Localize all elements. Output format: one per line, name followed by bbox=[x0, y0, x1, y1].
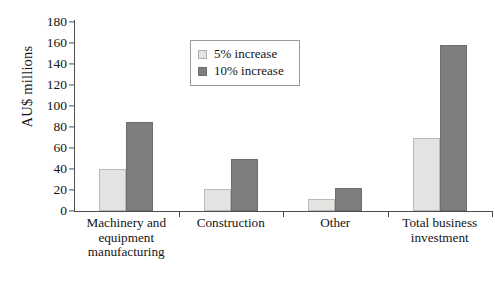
x-axis-category-label: Construction bbox=[179, 216, 284, 231]
bar-0 bbox=[99, 169, 126, 211]
y-axis-tick-mark bbox=[69, 147, 74, 148]
y-axis-tick-label: 20 bbox=[25, 182, 74, 198]
x-axis-category-label: Total businessinvestment bbox=[388, 216, 493, 245]
category-label-line: Construction bbox=[179, 216, 284, 231]
bar-0 bbox=[204, 189, 231, 211]
legend-swatch-icon bbox=[198, 50, 207, 59]
legend-item-label: 10% increase bbox=[214, 63, 284, 79]
legend-item-label: 5% increase bbox=[214, 46, 277, 62]
y-axis-tick-mark bbox=[69, 21, 74, 22]
bar-0 bbox=[308, 199, 335, 211]
chart-legend: 5% increase 10% increase bbox=[190, 40, 300, 86]
y-axis-tick-mark bbox=[69, 189, 74, 190]
y-axis-tick-mark bbox=[69, 84, 74, 85]
y-axis-tick-label: 140 bbox=[25, 56, 74, 72]
x-axis-tick-mark bbox=[492, 211, 493, 217]
bar-1 bbox=[440, 45, 467, 211]
y-axis-tick-mark bbox=[69, 168, 74, 169]
bar-chart: AU$ millions 020406080100120140160180 5%… bbox=[0, 0, 495, 281]
legend-swatch-icon bbox=[198, 67, 207, 76]
y-axis-tick-label: 80 bbox=[25, 119, 74, 135]
bar-1 bbox=[126, 122, 153, 211]
category-label-line: Other bbox=[283, 216, 388, 231]
x-axis-category-label: Other bbox=[283, 216, 388, 231]
y-axis-tick-label: 120 bbox=[25, 77, 74, 93]
category-label-line: Total business bbox=[388, 216, 493, 231]
y-axis-tick-label: 160 bbox=[25, 35, 74, 51]
legend-item: 5% increase bbox=[198, 46, 292, 62]
y-axis-tick-mark bbox=[69, 42, 74, 43]
y-axis-tick-label: 100 bbox=[25, 98, 74, 114]
y-axis-tick-label: 40 bbox=[25, 161, 74, 177]
y-axis-tick-mark bbox=[69, 105, 74, 106]
bar-0 bbox=[413, 138, 440, 212]
bar-1 bbox=[231, 159, 258, 212]
y-axis-tick-label: 60 bbox=[25, 140, 74, 156]
y-axis-tick-mark bbox=[69, 126, 74, 127]
bar-1 bbox=[335, 188, 362, 211]
y-axis-tick-label: 0 bbox=[25, 203, 74, 219]
category-label-line: Machinery and bbox=[74, 216, 179, 231]
category-label-line: investment bbox=[388, 231, 493, 246]
y-axis-tick-label: 180 bbox=[25, 14, 74, 30]
y-axis-tick-mark bbox=[69, 210, 74, 211]
category-label-line: equipment bbox=[74, 231, 179, 246]
x-axis-category-label: Machinery andequipmentmanufacturing bbox=[74, 216, 179, 260]
y-axis-tick-mark bbox=[69, 63, 74, 64]
legend-item: 10% increase bbox=[198, 63, 292, 79]
category-label-line: manufacturing bbox=[74, 245, 179, 260]
